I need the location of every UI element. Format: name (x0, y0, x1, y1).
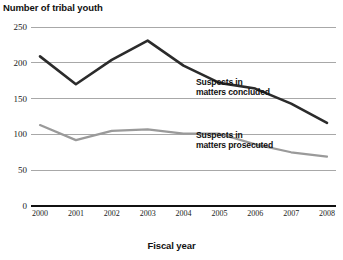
x-tick-label: 2005 (211, 209, 227, 218)
x-tick-label: 2001 (68, 209, 84, 218)
series-label-prosecuted: Suspects in matters prosecuted (196, 131, 273, 150)
y-axis-title: Number of tribal youth (3, 2, 103, 13)
y-tick-label: 250 (14, 22, 28, 32)
line-chart: Number of tribal youth 050100150200250 2… (0, 0, 343, 260)
plot-area: 050100150200250 200020012002200320042005… (31, 27, 336, 206)
x-tick-label: 2000 (32, 209, 48, 218)
series-label-prosecuted-line2: matters prosecuted (196, 141, 273, 151)
y-tick-label: 150 (14, 94, 28, 104)
y-tick-label: 50 (18, 165, 27, 175)
series-label-concluded-line2: matters concluded (196, 88, 270, 98)
x-tick-label: 2007 (283, 209, 299, 218)
x-axis-title: Fiscal year (0, 240, 343, 251)
x-tick-label: 2003 (140, 209, 156, 218)
x-tick-label: 2002 (104, 209, 120, 218)
series-line-prosecuted (40, 125, 327, 157)
y-tick-label: 200 (14, 58, 28, 68)
series-label-concluded: Suspects in matters concluded (196, 78, 270, 97)
series-line-concluded (40, 41, 327, 123)
x-tick-label: 2006 (247, 209, 263, 218)
x-tick-label: 2008 (319, 209, 335, 218)
y-tick-label: 0 (23, 201, 28, 211)
series-lines (31, 27, 336, 206)
x-tick-label: 2004 (176, 209, 192, 218)
y-tick-label: 100 (14, 129, 28, 139)
